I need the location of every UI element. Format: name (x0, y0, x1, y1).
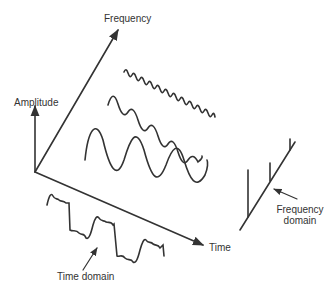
mid-frequency-sine-wave (108, 96, 202, 162)
time-domain-label: Time domain (57, 271, 114, 282)
amplitude-axis-label: Amplitude (14, 97, 58, 108)
low-frequency-sine-wave (85, 129, 208, 183)
time-domain-pointer-arrow (83, 248, 97, 270)
frequency-domain-label-line2: domain (270, 215, 330, 226)
diagram-canvas (0, 0, 335, 292)
frequency-domain-label: Frequency domain (270, 204, 330, 226)
frequency-domain-pointer-arrow (274, 189, 297, 199)
time-axis (35, 172, 203, 245)
frequency-axis-label: Frequency (104, 13, 151, 24)
time-domain-signal (47, 194, 164, 262)
frequency-domain-label-line1: Frequency (270, 204, 330, 215)
time-axis-label: Time (209, 242, 231, 253)
high-frequency-sine-wave (124, 70, 215, 117)
